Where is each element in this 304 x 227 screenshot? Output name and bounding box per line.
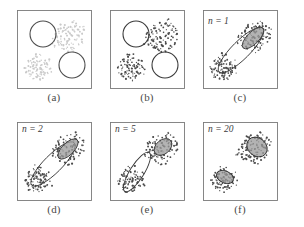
data-point xyxy=(223,79,225,81)
data-point xyxy=(226,63,228,65)
data-point xyxy=(231,186,232,187)
data-point xyxy=(241,40,242,41)
data-point xyxy=(126,73,127,74)
data-point xyxy=(126,54,128,56)
data-point xyxy=(28,173,29,174)
data-point xyxy=(132,80,133,81)
data-point xyxy=(39,76,40,77)
data-point xyxy=(119,180,120,181)
data-point xyxy=(139,64,140,65)
data-point xyxy=(76,25,77,26)
data-point xyxy=(256,135,258,137)
data-point xyxy=(215,186,217,188)
data-point xyxy=(60,43,61,44)
data-point xyxy=(37,75,39,77)
data-point xyxy=(213,60,215,62)
data-point xyxy=(236,184,237,185)
data-point xyxy=(240,153,242,155)
data-point xyxy=(40,55,41,56)
data-point xyxy=(33,78,35,80)
data-point xyxy=(33,57,35,59)
data-point xyxy=(135,179,137,181)
data-point xyxy=(123,173,125,175)
data-point xyxy=(153,39,154,40)
data-point xyxy=(257,157,258,158)
data-point xyxy=(37,181,38,182)
data-point xyxy=(142,171,144,173)
data-point xyxy=(78,155,80,157)
data-point xyxy=(228,187,230,189)
data-point xyxy=(61,44,63,46)
data-point xyxy=(257,47,258,48)
data-point xyxy=(129,167,130,168)
data-point xyxy=(236,180,238,182)
data-point xyxy=(45,60,46,61)
data-point xyxy=(223,76,224,77)
data-point xyxy=(27,172,28,173)
data-point xyxy=(134,76,136,78)
data-point xyxy=(26,71,28,73)
data-point xyxy=(128,64,130,66)
data-point xyxy=(248,156,250,158)
data-point xyxy=(159,22,161,24)
panel-frame xyxy=(111,11,185,89)
data-point xyxy=(31,63,32,64)
data-point xyxy=(132,58,133,59)
data-point xyxy=(157,48,159,50)
data-point xyxy=(27,183,28,184)
data-point xyxy=(157,135,158,136)
data-point xyxy=(246,148,247,149)
data-point xyxy=(260,21,261,22)
data-point xyxy=(33,64,35,66)
data-point xyxy=(268,37,270,39)
data-point xyxy=(169,156,171,158)
data-point xyxy=(119,178,121,180)
data-point xyxy=(55,147,56,148)
data-point xyxy=(63,28,64,29)
data-point xyxy=(223,191,225,193)
data-point xyxy=(60,136,62,138)
data-point xyxy=(269,144,271,146)
data-point xyxy=(242,144,244,146)
data-point xyxy=(147,142,149,144)
data-point xyxy=(41,189,43,191)
data-point xyxy=(136,71,137,72)
data-point xyxy=(44,74,46,76)
data-point xyxy=(165,50,166,51)
data-point xyxy=(174,153,175,154)
data-point xyxy=(63,48,65,50)
data-point xyxy=(40,173,41,174)
data-point xyxy=(161,25,163,27)
data-point xyxy=(54,46,55,47)
data-point xyxy=(162,27,164,29)
data-point xyxy=(152,155,153,156)
data-point xyxy=(44,186,45,187)
data-point xyxy=(57,40,59,42)
data-point xyxy=(123,60,125,62)
data-point xyxy=(143,74,144,75)
data-point xyxy=(157,37,158,38)
data-point xyxy=(155,30,157,32)
data-point xyxy=(238,149,240,151)
data-point xyxy=(79,137,80,138)
data-point xyxy=(214,63,215,64)
data-point xyxy=(49,60,50,61)
data-point xyxy=(222,187,224,189)
data-point xyxy=(68,26,70,28)
data-point xyxy=(160,37,161,38)
data-point xyxy=(223,75,224,76)
data-point xyxy=(247,154,248,155)
data-point xyxy=(259,48,261,50)
data-point xyxy=(228,72,230,74)
data-point xyxy=(257,163,258,164)
data-point xyxy=(52,38,54,40)
data-point xyxy=(81,41,83,43)
data-point xyxy=(261,45,262,46)
data-point xyxy=(130,59,131,60)
data-point xyxy=(173,26,174,27)
data-point xyxy=(230,72,232,74)
data-point xyxy=(145,149,146,150)
data-point xyxy=(177,30,178,31)
data-point xyxy=(143,68,144,69)
data-point xyxy=(155,36,157,38)
